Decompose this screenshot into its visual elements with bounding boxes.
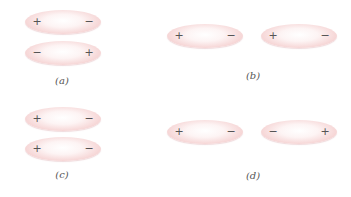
negative-charge-icon: − xyxy=(84,16,93,27)
positive-charge-icon: + xyxy=(320,126,329,137)
negative-charge-icon: − xyxy=(32,47,41,58)
positive-charge-icon: + xyxy=(174,126,183,137)
positive-charge-icon: + xyxy=(174,30,183,41)
negative-charge-icon: − xyxy=(84,113,93,124)
dipole-molecule: + − xyxy=(25,107,101,131)
dipole-molecule: − + xyxy=(261,120,337,144)
panel-label: (d) xyxy=(246,170,260,181)
positive-charge-icon: + xyxy=(32,143,41,154)
dipole-molecule: − + xyxy=(25,41,101,65)
positive-charge-icon: + xyxy=(268,30,277,41)
negative-charge-icon: − xyxy=(226,30,235,41)
panel-label: (b) xyxy=(246,70,260,81)
panel-label: (c) xyxy=(55,169,68,180)
negative-charge-icon: − xyxy=(320,30,329,41)
negative-charge-icon: − xyxy=(226,126,235,137)
dipole-molecule: + − xyxy=(261,24,337,48)
positive-charge-icon: + xyxy=(32,16,41,27)
dipole-molecule: + − xyxy=(167,120,243,144)
negative-charge-icon: − xyxy=(84,143,93,154)
positive-charge-icon: + xyxy=(32,113,41,124)
dipole-molecule: + − xyxy=(25,10,101,34)
panel-label: (a) xyxy=(55,75,69,86)
dipole-molecule: + − xyxy=(167,24,243,48)
negative-charge-icon: − xyxy=(268,126,277,137)
positive-charge-icon: + xyxy=(84,47,93,58)
dipole-molecule: + − xyxy=(25,137,101,161)
